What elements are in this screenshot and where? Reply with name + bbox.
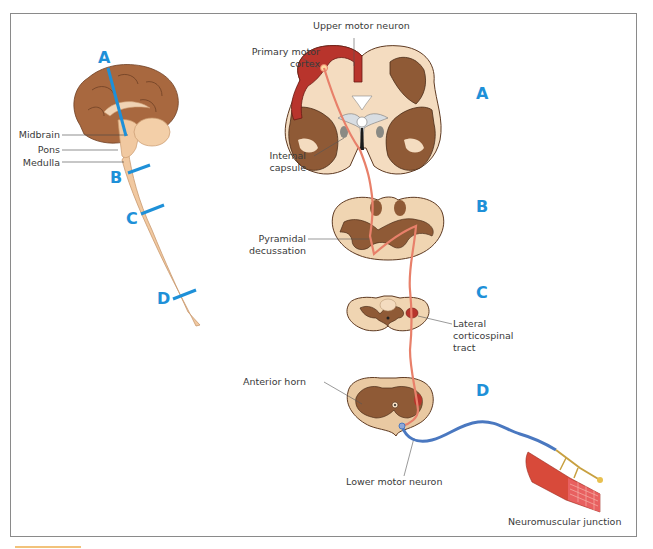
label-anterior-horn: Anterior horn bbox=[243, 376, 306, 388]
diagram-artwork bbox=[0, 0, 653, 549]
lower-motor-neuron-path bbox=[402, 422, 556, 450]
label-upper-motor-neuron: Upper motor neuron bbox=[313, 20, 410, 32]
label-pyramidal-decussation-line2: decussation bbox=[230, 245, 306, 257]
label-lateral-corticospinal-line1: Lateral bbox=[453, 318, 486, 330]
label-pyramidal-decussation-line1: Pyramidal bbox=[230, 233, 306, 245]
section-marker-c-sagittal: C bbox=[126, 211, 138, 227]
section-label-b: B bbox=[476, 199, 488, 215]
section-label-d: D bbox=[476, 383, 489, 399]
cervical-cord-section bbox=[347, 296, 452, 331]
label-neuromuscular-junction: Neuromuscular junction bbox=[508, 516, 621, 528]
label-midbrain: Midbrain bbox=[18, 129, 60, 141]
label-pons: Pons bbox=[18, 144, 60, 156]
section-marker-d-sagittal: D bbox=[157, 291, 170, 307]
label-lateral-corticospinal-line2: corticospinal bbox=[453, 330, 513, 342]
section-marker-a-sagittal: A bbox=[98, 50, 110, 66]
label-medulla: Medulla bbox=[18, 157, 60, 169]
section-marker-b-sagittal: B bbox=[110, 170, 122, 186]
section-label-c: C bbox=[476, 285, 488, 301]
neuromuscular-junction-illustration bbox=[526, 450, 603, 512]
label-lateral-corticospinal-line3: tract bbox=[453, 342, 475, 354]
label-lower-motor-neuron: Lower motor neuron bbox=[346, 476, 442, 488]
sagittal-brain-illustration bbox=[62, 65, 200, 327]
section-label-a: A bbox=[476, 86, 488, 102]
label-primary-motor-cortex-line2: cortex bbox=[226, 58, 320, 70]
label-internal-capsule-line1: Internal bbox=[240, 150, 306, 162]
label-internal-capsule-line2: capsule bbox=[240, 162, 306, 174]
label-primary-motor-cortex-line1: Primary motor bbox=[226, 46, 320, 58]
medulla-section bbox=[308, 197, 444, 260]
lumbar-cord-section bbox=[324, 378, 433, 476]
